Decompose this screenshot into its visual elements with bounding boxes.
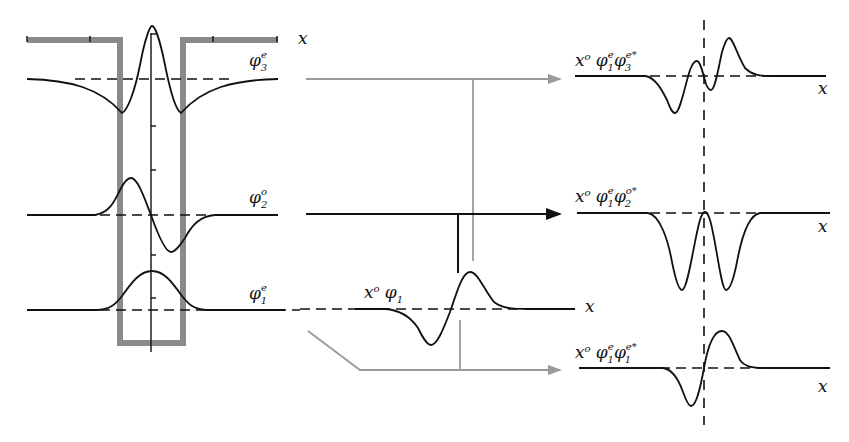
- right-axis-label-x-3: x: [818, 378, 828, 395]
- label-product-1-1: xo φe1φe*1: [575, 344, 631, 365]
- label-product-1-3: xo φe1φe*3: [575, 52, 631, 73]
- label-phi2-odd: φo2: [249, 189, 267, 210]
- right-axis-label-x-2: x: [818, 218, 828, 235]
- middle-axis-label-x: x: [585, 298, 595, 315]
- x-phi1-product: [300, 272, 575, 345]
- arrow-phi1-to-product: [308, 331, 560, 370]
- diagram-canvas: x φe3 φo2 φe1 xo φ1 x xo φe1φe*3 x xo φe…: [0, 0, 849, 442]
- label-phi3-even: φe3: [249, 52, 267, 73]
- energy-axis: [151, 33, 156, 352]
- label-phi1-even: φe1: [249, 285, 267, 306]
- left-axis-label-x: x: [298, 30, 308, 47]
- right-axis-label-x-1: x: [818, 80, 828, 97]
- label-x-phi1: xo φ1: [364, 284, 403, 305]
- wavefunction-phi2-odd: [27, 178, 278, 252]
- label-product-1-2: xo φe1φo*2: [575, 188, 631, 209]
